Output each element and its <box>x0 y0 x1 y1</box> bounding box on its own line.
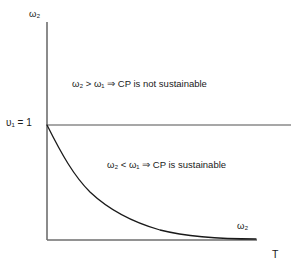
omega2-decay-curve <box>47 125 256 239</box>
y-axis-label: ω₂ <box>29 9 40 19</box>
annotation-not-sustainable: ω₂ > ω₁ ⇒ CP is not sustainable <box>72 79 207 89</box>
economics-sustainability-figure: ω₂ υ₁ = 1 T ω₂ ω₂ > ω₁ ⇒ CP is not susta… <box>0 0 298 271</box>
annotation-sustainable: ω₂ < ω₁ ⇒ CP is sustainable <box>107 160 226 170</box>
curve-series-label: ω₂ <box>237 221 248 231</box>
x-axis-label: T <box>272 249 278 260</box>
figure-canvas <box>0 0 298 271</box>
threshold-value-label: υ₁ = 1 <box>6 118 32 128</box>
